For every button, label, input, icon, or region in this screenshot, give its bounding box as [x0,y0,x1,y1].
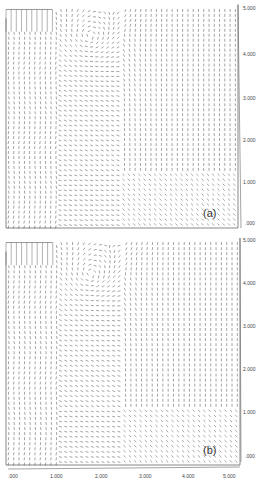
svg-text:1.000: 1.000 [243,409,256,415]
panel-a [6,5,238,228]
vector-field-figure: (a) (b) 5.000 4.000 3.000 2.000 1.000 .0… [0,0,261,484]
svg-text:5.000: 5.000 [243,237,256,243]
svg-text:1.000: 1.000 [50,473,63,479]
svg-text:4.000: 4.000 [243,280,256,286]
svg-text:.000: .000 [245,220,255,226]
svg-text:3.000: 3.000 [139,473,152,479]
svg-text:5.000: 5.000 [223,473,236,479]
panel-label-a: (a) [203,207,216,219]
svg-text:3.000: 3.000 [243,95,256,101]
svg-text:4.000: 4.000 [243,51,256,57]
svg-text:1.000: 1.000 [243,179,256,185]
svg-text:5.000: 5.000 [243,5,256,11]
svg-text:.000: .000 [245,453,255,459]
svg-text:2.000: 2.000 [243,366,256,372]
x-axis: .000 1.000 2.000 3.000 4.000 5.000 [8,467,240,479]
svg-text:4.000: 4.000 [182,473,195,479]
panel-label-b: (b) [203,444,216,456]
svg-text:2.000: 2.000 [243,137,256,143]
panel-b [6,238,240,465]
y-axis-b: 5.000 4.000 3.000 2.000 1.000 .000 [240,237,256,462]
svg-text:3.000: 3.000 [243,323,256,329]
y-axis-a: 5.000 4.000 3.000 2.000 1.000 .000 [238,4,256,228]
svg-text:.000: .000 [8,473,18,479]
svg-text:2.000: 2.000 [95,473,108,479]
